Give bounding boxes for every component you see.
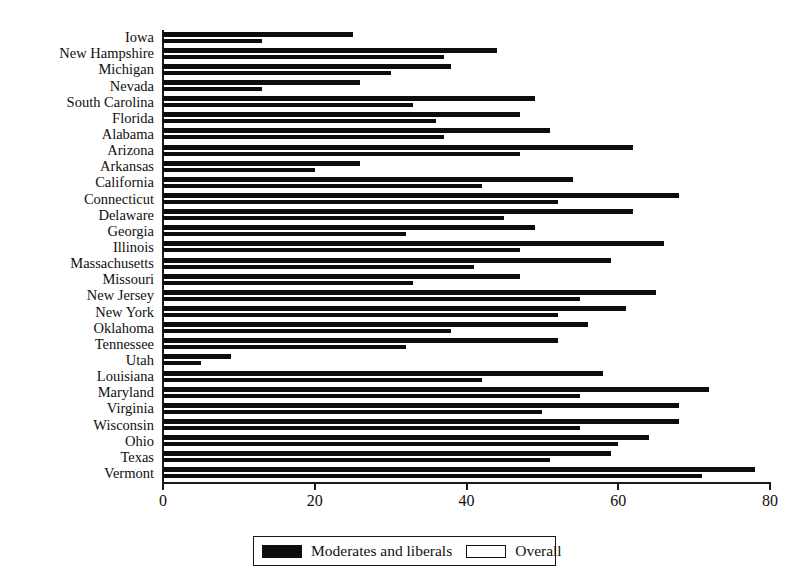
x-axis-tick-label: 40 <box>437 492 497 510</box>
bar-overall <box>163 48 497 53</box>
bar-overall <box>163 387 709 392</box>
bar-overall <box>163 112 520 117</box>
bar-moderates-and-liberals <box>163 313 558 317</box>
y-axis-category-labels: IowaNew HampshireMichiganNevadaSouth Car… <box>0 30 158 482</box>
x-axis-tick <box>769 482 771 490</box>
y-axis-label: Massachusetts <box>0 256 154 270</box>
y-axis-label: Arizona <box>0 143 154 157</box>
x-axis-tick <box>162 482 164 490</box>
legend-item-moderates-and-liberals: Moderates and liberals <box>262 542 466 560</box>
y-axis-label: Michigan <box>0 62 154 76</box>
bar-overall <box>163 80 360 85</box>
bar-overall <box>163 274 520 279</box>
y-axis-label: Louisiana <box>0 369 154 383</box>
y-axis-label: Alabama <box>0 127 154 141</box>
bar-overall <box>163 403 679 408</box>
bar-overall <box>163 225 535 230</box>
bar-moderates-and-liberals <box>163 39 262 43</box>
bar-overall <box>163 322 588 327</box>
y-axis-label: Connecticut <box>0 192 154 206</box>
bar-moderates-and-liberals <box>163 458 550 462</box>
y-axis-label: Oklahoma <box>0 321 154 335</box>
bar-overall <box>163 209 633 214</box>
y-axis-label: Utah <box>0 353 154 367</box>
y-axis-label: New York <box>0 305 154 319</box>
bar-moderates-and-liberals <box>163 119 436 123</box>
y-axis-label: New Jersey <box>0 288 154 302</box>
bar-moderates-and-liberals <box>163 410 542 414</box>
bar-overall <box>163 128 550 133</box>
y-axis-label: Missouri <box>0 272 154 286</box>
y-axis-label: Nevada <box>0 79 154 93</box>
bar-overall <box>163 451 611 456</box>
bar-moderates-and-liberals <box>163 474 702 478</box>
x-axis-tick <box>314 482 316 490</box>
bar-overall <box>163 32 353 37</box>
bar-moderates-and-liberals <box>163 297 580 301</box>
y-axis-label: California <box>0 175 154 189</box>
bar-moderates-and-liberals <box>163 378 482 382</box>
y-axis-label: Maryland <box>0 385 154 399</box>
y-axis-label: Delaware <box>0 208 154 222</box>
bar-moderates-and-liberals <box>163 103 413 107</box>
bar-overall <box>163 371 603 376</box>
legend-swatch-open-icon <box>466 545 506 558</box>
bar-moderates-and-liberals <box>163 329 451 333</box>
bar-moderates-and-liberals <box>163 71 391 75</box>
chart-legend: Moderates and liberals Overall <box>253 536 556 566</box>
x-axis-tick <box>617 482 619 490</box>
bar-overall <box>163 145 633 150</box>
x-axis-tick-label: 60 <box>588 492 648 510</box>
y-axis-label: New Hampshire <box>0 46 154 60</box>
bar-moderates-and-liberals <box>163 265 474 269</box>
plot-area <box>163 30 770 482</box>
legend-label-overall: Overall <box>515 542 561 560</box>
y-axis-label: Georgia <box>0 224 154 238</box>
bar-overall <box>163 193 679 198</box>
y-axis-label: Virginia <box>0 401 154 415</box>
bar-moderates-and-liberals <box>163 345 406 349</box>
bar-moderates-and-liberals <box>163 135 444 139</box>
legend-label-moderates-and-liberals: Moderates and liberals <box>311 542 452 560</box>
bar-overall <box>163 258 611 263</box>
legend-item-overall: Overall <box>466 542 561 560</box>
x-axis-tick-label: 0 <box>133 492 193 510</box>
y-axis-label: Illinois <box>0 240 154 254</box>
bar-overall <box>163 306 626 311</box>
bar-moderates-and-liberals <box>163 87 262 91</box>
bar-overall <box>163 419 679 424</box>
bar-moderates-and-liberals <box>163 394 580 398</box>
y-axis-label: Arkansas <box>0 159 154 173</box>
y-axis-label: Wisconsin <box>0 418 154 432</box>
bar-moderates-and-liberals <box>163 426 580 430</box>
x-axis-tick-label: 20 <box>285 492 345 510</box>
x-axis-tick <box>466 482 468 490</box>
bar-moderates-and-liberals <box>163 248 520 252</box>
bar-overall <box>163 435 649 440</box>
bar-moderates-and-liberals <box>163 232 406 236</box>
bar-moderates-and-liberals <box>163 200 558 204</box>
bar-moderates-and-liberals <box>163 361 201 365</box>
y-axis-label: Iowa <box>0 30 154 44</box>
y-axis-label: Ohio <box>0 434 154 448</box>
y-axis-label: Tennessee <box>0 337 154 351</box>
bar-moderates-and-liberals <box>163 184 482 188</box>
x-axis-tick-label: 80 <box>740 492 800 510</box>
bar-overall <box>163 354 231 359</box>
bar-moderates-and-liberals <box>163 442 618 446</box>
bar-overall <box>163 467 755 472</box>
bar-chart: IowaNew HampshireMichiganNevadaSouth Car… <box>0 0 809 588</box>
bar-moderates-and-liberals <box>163 281 413 285</box>
y-axis-label: Florida <box>0 111 154 125</box>
bar-overall <box>163 64 451 69</box>
legend-swatch-filled-icon <box>262 545 302 558</box>
bar-moderates-and-liberals <box>163 55 444 59</box>
bar-moderates-and-liberals <box>163 216 504 220</box>
y-axis-label: Vermont <box>0 466 154 480</box>
bar-moderates-and-liberals <box>163 168 315 172</box>
bar-overall <box>163 96 535 101</box>
bar-overall <box>163 290 656 295</box>
bar-overall <box>163 161 360 166</box>
bar-overall <box>163 241 664 246</box>
y-axis-label: South Carolina <box>0 95 154 109</box>
